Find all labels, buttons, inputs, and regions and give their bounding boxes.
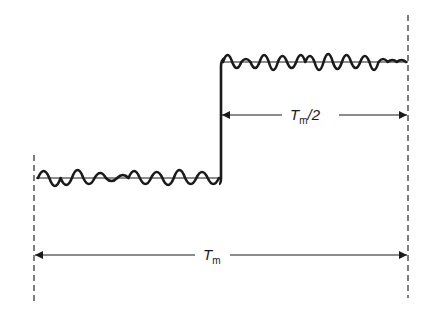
half-interval-suffix: /2 bbox=[307, 106, 321, 123]
half-interval-subscript: m bbox=[299, 115, 307, 126]
step-diagram: Tm/2 Tm bbox=[0, 0, 440, 313]
full-interval-subscript: m bbox=[212, 255, 220, 266]
step-transition-edge bbox=[219, 58, 225, 184]
full-interval-label: Tm bbox=[203, 246, 221, 266]
half-interval-label: Tm/2 bbox=[290, 106, 321, 126]
high-level-noisy-signal bbox=[223, 54, 406, 70]
